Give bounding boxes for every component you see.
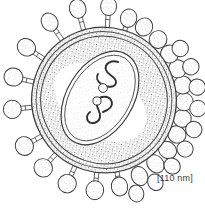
glycoprotein-spike — [14, 35, 45, 61]
glycoprotein-spike — [67, 0, 88, 30]
spike-head — [2, 66, 25, 88]
glycoprotein-spike — [2, 99, 32, 119]
glycoprotein-spike — [100, 0, 117, 27]
spike-head — [126, 183, 146, 204]
spike-head — [2, 99, 22, 119]
glycoprotein-spike — [12, 133, 43, 158]
virus-diagram-figure: [110 nm] — [0, 0, 205, 209]
spike-head — [67, 0, 88, 20]
spike-head — [55, 171, 79, 195]
core-granule-1 — [99, 84, 108, 93]
glycoprotein-spike — [126, 183, 146, 204]
glycoprotein-spike — [30, 152, 57, 181]
glycoprotein-spike — [2, 66, 34, 88]
glycoprotein-spike — [38, 10, 64, 42]
glycoprotein-spike — [85, 172, 105, 201]
scale-label: [110 nm] — [157, 173, 193, 183]
spike-head — [85, 180, 105, 201]
spike-head — [12, 133, 37, 158]
core-granule-2 — [93, 97, 101, 105]
glycoprotein-spike — [55, 165, 79, 195]
glycoprotein-spike — [110, 171, 129, 197]
spike-head — [110, 176, 129, 198]
spike-head — [100, 0, 117, 16]
